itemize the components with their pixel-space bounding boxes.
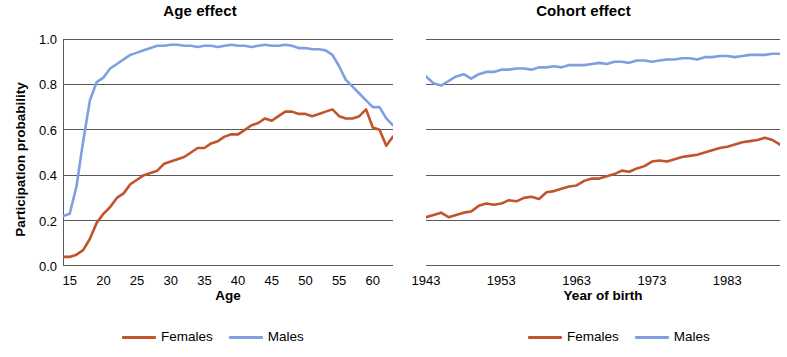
legend-cohort-effect: Females Males	[528, 330, 710, 344]
legend-age-effect: Females Males	[122, 330, 304, 344]
x-tick-label: 20	[88, 274, 118, 287]
x-tick-label: 1943	[404, 274, 448, 287]
legend-swatch-males-right	[635, 336, 669, 339]
chart-svg-age-effect	[63, 39, 393, 266]
legend-swatch-females-left	[122, 336, 156, 339]
x-tick-label: 15	[55, 274, 85, 287]
legend-item-females-left[interactable]: Females	[122, 330, 213, 344]
legend-item-males-left[interactable]: Males	[229, 330, 304, 344]
chart-svg-cohort-effect	[426, 39, 780, 266]
x-tick-label: 55	[324, 274, 354, 287]
legend-label-males-right: Males	[674, 330, 710, 344]
y-tick-label: 0.8	[25, 78, 57, 91]
plot-area-cohort-effect	[426, 39, 780, 266]
x-tick-label: 1973	[630, 274, 674, 287]
y-tick-label: 0.4	[25, 169, 57, 182]
panel-title-age-effect: Age effect	[10, 2, 390, 19]
legend-label-females-right: Females	[567, 330, 619, 344]
x-tick-label: 1963	[555, 274, 599, 287]
x-tick-label: 1953	[479, 274, 523, 287]
x-axis-label-right: Year of birth	[426, 288, 780, 303]
x-tick-label: 40	[223, 274, 253, 287]
x-tick-label: 45	[257, 274, 287, 287]
y-tick-label: 0.0	[25, 260, 57, 273]
legend-swatch-males-left	[229, 336, 263, 339]
panel-age-effect: Age effect Participation probability Age…	[0, 0, 400, 320]
legend-label-females-left: Females	[161, 330, 213, 344]
y-tick-label: 0.2	[25, 215, 57, 228]
panel-title-cohort-effect: Cohort effect	[390, 2, 777, 19]
panel-cohort-effect: Cohort effect Year of birth 194319531963…	[400, 0, 787, 320]
legend-item-males-right[interactable]: Males	[635, 330, 710, 344]
figure: Age effect Participation probability Age…	[0, 0, 787, 357]
x-tick-label: 35	[189, 274, 219, 287]
legend-label-males-left: Males	[268, 330, 304, 344]
x-tick-label: 1983	[705, 274, 749, 287]
x-tick-label: 25	[122, 274, 152, 287]
legend-item-females-right[interactable]: Females	[528, 330, 619, 344]
x-tick-label: 60	[358, 274, 388, 287]
y-tick-label: 0.6	[25, 124, 57, 137]
x-tick-label: 30	[156, 274, 186, 287]
legend-swatch-females-right	[528, 336, 562, 339]
x-tick-label: 50	[290, 274, 320, 287]
plot-area-age-effect	[63, 39, 393, 266]
x-axis-label-left: Age	[63, 288, 393, 303]
y-tick-label: 1.0	[25, 33, 57, 46]
